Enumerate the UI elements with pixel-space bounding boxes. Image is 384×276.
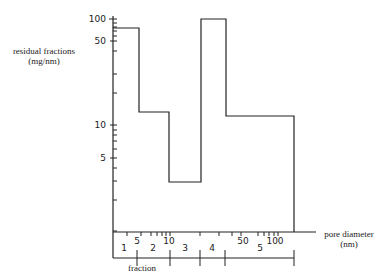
fraction-axis-label: fraction	[122, 263, 162, 273]
fraction-4: 4	[209, 243, 215, 253]
y-axis-label-line1: residual fractions	[8, 46, 80, 56]
y-tick-10: 10	[95, 120, 107, 130]
y-tick-50: 50	[95, 36, 107, 46]
histogram-outline	[113, 19, 294, 232]
x-axis-ticks	[127, 232, 278, 236]
x-tick-100: 100	[266, 236, 283, 246]
x-axis-label-line2: (nm)	[318, 239, 380, 249]
x-tick-50: 50	[237, 236, 249, 246]
y-axis-label-line2: (mg/nm)	[8, 56, 80, 66]
fraction-2: 2	[150, 243, 156, 253]
x-tick-10: 10	[163, 236, 175, 246]
y-tick-100: 100	[89, 14, 106, 24]
fraction-1: 1	[121, 243, 127, 253]
fraction-3: 3	[182, 243, 188, 253]
y-axis-label: residual fractions (mg/nm)	[8, 46, 80, 66]
x-axis-label: pore diameter (nm)	[318, 229, 380, 249]
x-tick-5: 5	[134, 236, 140, 246]
y-tick-5: 5	[100, 153, 106, 163]
x-axis-label-line1: pore diameter	[318, 229, 380, 239]
fraction-5: 5	[257, 243, 263, 253]
